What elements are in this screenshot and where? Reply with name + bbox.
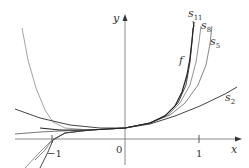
label-f: f	[178, 54, 185, 67]
tick-label-neg-one: −1	[47, 148, 62, 159]
curve-s8	[25, 26, 201, 168]
curves-group	[15, 22, 237, 168]
label-s2-sub: 2	[231, 98, 235, 106]
y-axis-arrow-icon	[123, 14, 128, 21]
tick-label-one: 1	[196, 148, 202, 159]
y-axis-label: y	[112, 12, 120, 25]
label-s8-sub: 8	[207, 26, 211, 34]
x-axis-label: x	[231, 143, 238, 156]
x-axis-arrow-icon	[235, 137, 242, 142]
series-plot: y x 0 −1 1 f s11 s8 s5 s2	[0, 0, 249, 168]
label-s2: s2	[225, 91, 235, 106]
label-s8: s8	[201, 19, 211, 34]
label-s5-sub: 5	[216, 42, 220, 50]
curve-s2	[15, 87, 237, 128]
label-s5: s5	[210, 35, 220, 50]
origin-label: 0	[116, 144, 122, 155]
